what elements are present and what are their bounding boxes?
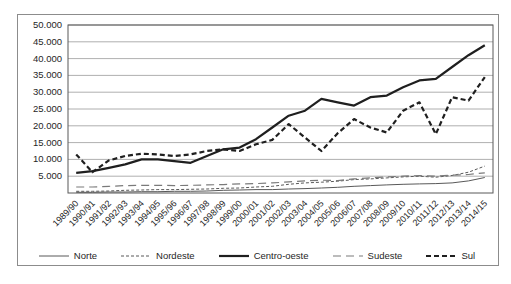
legend-label-nordeste: Nordeste	[156, 251, 195, 261]
legend-line-sample-norte	[39, 251, 69, 261]
legend-item-sul: Sul	[426, 251, 475, 261]
legend-item-norte: Norte	[39, 251, 97, 261]
legend: Norte Nordeste Centro-oeste Sudeste Sul	[18, 247, 496, 265]
figure-canvas: 50.00045.00040.00035.00030.00025.00020.0…	[0, 0, 511, 284]
legend-label-norte: Norte	[74, 251, 97, 261]
legend-line-sample-nordeste	[121, 251, 151, 261]
legend-item-nordeste: Nordeste	[121, 251, 195, 261]
legend-item-sudeste: Sudeste	[333, 251, 403, 261]
legend-item-centro-oeste: Centro-oeste	[219, 251, 309, 261]
legend-label-sul: Sul	[461, 251, 475, 261]
legend-label-centro-oeste: Centro-oeste	[254, 251, 309, 261]
legend-line-sample-centro-oeste	[219, 251, 249, 261]
legend-label-sudeste: Sudeste	[368, 251, 403, 261]
legend-line-sample-sudeste	[333, 251, 363, 261]
legend-line-sample-sul	[426, 251, 456, 261]
chart-frame	[17, 14, 499, 266]
